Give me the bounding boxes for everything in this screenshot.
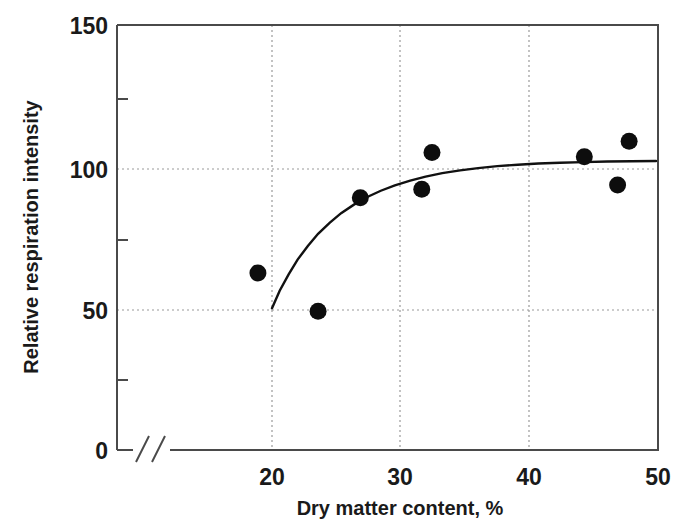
plot-frame — [117, 25, 658, 450]
respiration-vs-dry-matter-chart: 150 100 50 0 20 30 40 50 Dry matter cont… — [0, 0, 683, 527]
data-point — [576, 148, 593, 165]
data-point — [621, 133, 638, 150]
x-tick-label-40: 40 — [516, 464, 542, 490]
y-tick-label-0: 0 — [95, 438, 108, 464]
data-point — [310, 303, 327, 320]
data-point — [424, 144, 441, 161]
x-tick-label-50: 50 — [645, 464, 671, 490]
data-point — [352, 189, 369, 206]
y-tick-label-150: 150 — [70, 13, 108, 39]
data-point-group — [249, 133, 637, 320]
y-tick-label-50: 50 — [82, 298, 108, 324]
axis-break-icon — [136, 436, 149, 462]
x-tick-label-20: 20 — [259, 464, 285, 490]
x-axis-title: Dry matter content, % — [297, 497, 504, 519]
axis-break-icon-2 — [152, 436, 165, 462]
x-tick-label-30: 30 — [387, 464, 413, 490]
data-point — [609, 177, 626, 194]
chart-svg: 150 100 50 0 20 30 40 50 Dry matter cont… — [0, 0, 683, 527]
data-point — [413, 181, 430, 198]
y-axis-title: Relative respiration intensity — [20, 99, 42, 373]
data-point — [249, 264, 266, 281]
chart-page: 150 100 50 0 20 30 40 50 Dry matter cont… — [0, 0, 683, 527]
y-tick-label-100: 100 — [70, 157, 108, 183]
fitted-curve — [272, 161, 656, 308]
